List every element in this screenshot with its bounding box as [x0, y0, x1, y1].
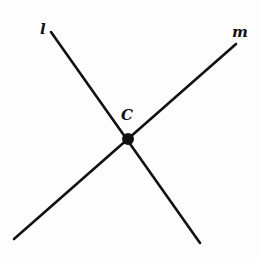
diagram-svg: l m C — [0, 0, 259, 258]
diagram-canvas: l m C — [0, 0, 259, 258]
label-c: C — [121, 106, 133, 124]
label-l: l — [40, 20, 46, 38]
label-m: m — [232, 23, 248, 41]
point-c-dot — [122, 133, 134, 145]
